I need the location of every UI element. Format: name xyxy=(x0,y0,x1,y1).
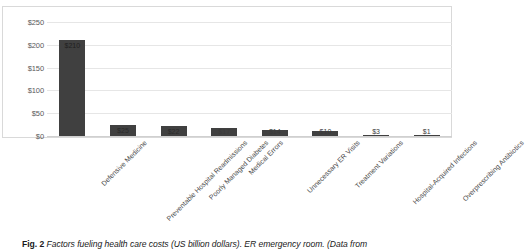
y-axis-tick-label: $200 xyxy=(0,40,44,49)
bar-slot: $10 xyxy=(300,16,351,136)
bar-value-label: $14 xyxy=(269,128,281,135)
bar[interactable] xyxy=(59,40,85,136)
caption-figure-number: Fig. 2 xyxy=(22,239,44,249)
y-axis-tick: $250 xyxy=(0,22,44,23)
y-axis-tick: $150 xyxy=(0,68,44,69)
bar-slot: $210 xyxy=(47,16,98,136)
figure-caption: Fig. 2 Factors fueling health care costs… xyxy=(22,239,454,249)
x-axis-category-label: Defensive Medicine xyxy=(100,139,148,187)
bar-series: $210$25$22$17$14$10$3$1 xyxy=(47,0,452,145)
bar-value-label: $1 xyxy=(423,128,431,135)
bar-slot: $3 xyxy=(351,16,402,136)
y-axis-tick: $0 xyxy=(0,136,44,137)
x-axis-category-label: Preventable Hospital Readmissions xyxy=(165,139,248,222)
y-axis-tick: $50 xyxy=(0,113,44,114)
bar-value-label: $17 xyxy=(218,128,230,135)
x-axis-category-label: Treatment Variations xyxy=(354,139,404,189)
y-axis-tick-label: $150 xyxy=(0,63,44,72)
caption-text: Factors fueling health care costs (US bi… xyxy=(47,239,368,249)
bar-slot: $17 xyxy=(199,16,250,136)
x-axis-category-labels: Defensive MedicinePreventable Hospital R… xyxy=(47,139,452,229)
bar-slot: $1 xyxy=(401,16,452,136)
bar-value-label: $3 xyxy=(372,128,380,135)
y-axis-tick: $200 xyxy=(0,45,44,46)
y-axis-tick: $100 xyxy=(0,90,44,91)
bar-slot: $14 xyxy=(250,16,301,136)
bar-value-label: $10 xyxy=(320,128,332,135)
bar-slot: $25 xyxy=(98,16,149,136)
bar-slot: $22 xyxy=(148,16,199,136)
y-axis-tick-label: $50 xyxy=(0,109,44,118)
y-axis-tick-label: $100 xyxy=(0,86,44,95)
bar-value-label: $25 xyxy=(117,127,129,134)
bar-value-label: $210 xyxy=(65,42,81,49)
chart-plot-area: $0$50$100$150$200$250 $210$25$22$17$14$1… xyxy=(0,0,461,145)
bar-value-label: $22 xyxy=(168,128,180,135)
y-axis-tick-label: $250 xyxy=(0,18,44,27)
x-axis-category-label: Unnecessary ER Visits xyxy=(306,139,361,194)
y-axis-tick-label: $0 xyxy=(0,132,44,141)
